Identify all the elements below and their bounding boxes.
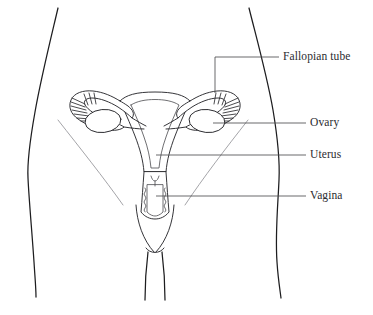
uterus-group	[120, 92, 190, 172]
left-torso-outline	[28, 8, 58, 297]
label-uterus: Uterus	[310, 149, 341, 161]
leader-fallopian-tube	[215, 57, 279, 93]
left-groin-crease	[58, 120, 123, 205]
label-ovary: Ovary	[310, 117, 339, 129]
uterus-outline	[120, 92, 190, 172]
right-torso-outline	[249, 8, 281, 298]
right-leg-inner-outline	[162, 252, 165, 300]
cervix-vagina-group	[136, 172, 174, 300]
left-leg-inner-outline	[145, 252, 148, 300]
introitus-curve	[146, 248, 164, 253]
right-groin-crease	[185, 120, 248, 205]
label-fallopian-tube: Fallopian tube	[283, 51, 351, 63]
anatomy-diagram: Fallopian tube Ovary Uterus Vagina	[0, 0, 373, 315]
label-vagina: Vagina	[310, 190, 343, 202]
